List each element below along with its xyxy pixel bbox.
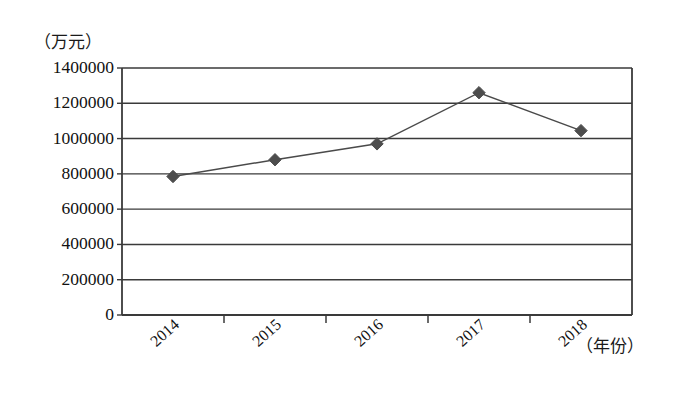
data-point-marker [167,170,179,182]
data-point-marker [371,138,383,150]
data-line [173,93,581,177]
data-point-marker [575,124,587,136]
x-axis-unit-label: （年份） [576,332,644,357]
data-point-marker [269,154,281,166]
line-chart: （万元） 02000004000006000008000001000000120… [0,0,696,393]
data-point-marker [473,87,485,99]
